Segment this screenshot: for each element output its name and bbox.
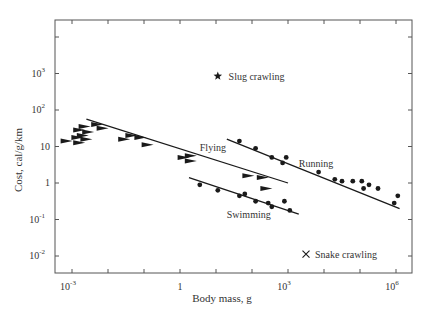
fit-lines: [86, 119, 399, 214]
running-point: [367, 182, 372, 187]
swimming-point: [282, 199, 287, 204]
flying-point: [79, 124, 91, 129]
x-tick-exponent: 3: [287, 279, 291, 287]
plot-axes: [55, 20, 412, 273]
y-tick-label: 103: [32, 66, 46, 79]
series-label-swimming: Swimming: [227, 209, 271, 220]
swimming-point: [253, 199, 258, 204]
x-tick-label: 103: [277, 279, 291, 292]
x-tick-exponent: -3: [70, 279, 76, 287]
swimming-point: [266, 201, 271, 206]
series-label-slug-crawling: Slug crawling: [229, 71, 285, 82]
x-tick-label: 1: [178, 281, 183, 292]
running-point: [359, 179, 364, 184]
running-point: [376, 186, 381, 191]
x-axis-label: Body mass, g: [192, 292, 252, 304]
running-point: [350, 179, 355, 184]
y-tick-label: 102: [32, 102, 46, 115]
running-point: [284, 155, 289, 160]
y-tick-exponent: 2: [42, 102, 46, 110]
swimming-point: [242, 192, 247, 197]
flying-point: [118, 137, 130, 142]
flying-point: [61, 139, 73, 144]
series-label-snake-crawling: Snake crawling: [315, 249, 377, 260]
swimming-point: [215, 188, 220, 193]
x-tick-label: 106: [385, 279, 399, 292]
swimming-point: [287, 208, 292, 213]
x-tick-exponent: 6: [395, 279, 399, 287]
running-point: [237, 139, 242, 144]
series-label-running: Running: [299, 158, 333, 169]
running-point: [332, 177, 337, 182]
flying-point: [80, 137, 92, 142]
running-point: [316, 170, 321, 175]
swimming-point: [237, 193, 242, 198]
running-point: [392, 201, 397, 206]
y-tick-label: 10-1: [29, 212, 45, 225]
y-tick-exponent: 3: [42, 66, 46, 74]
running-point: [340, 179, 345, 184]
flying-point: [73, 140, 85, 145]
y-tick-label: 10: [40, 141, 50, 152]
x-mark-icon: [303, 251, 310, 258]
flying-point: [97, 126, 109, 131]
series-label-flying: Flying: [200, 142, 226, 153]
y-tick-exponent: -2: [39, 248, 45, 256]
flying-point: [260, 186, 272, 191]
plot-frame: [55, 20, 412, 273]
flying-point: [142, 142, 154, 147]
swimming-point: [197, 182, 202, 187]
running-point: [361, 186, 366, 191]
running-point: [395, 193, 400, 198]
y-tick-exponent: -1: [39, 212, 45, 220]
running-point: [280, 161, 285, 166]
running-point: [253, 146, 258, 151]
star-icon: [214, 72, 223, 80]
y-axis-label: Cost, cal/g/km: [12, 127, 24, 192]
running-point: [269, 155, 274, 160]
flying-point: [185, 159, 197, 164]
y-tick-label: 1: [45, 177, 50, 188]
locomotion-cost-chart: 10-31103106 10310210110-110-2 FlyingRunn…: [0, 0, 430, 312]
flying-point: [242, 173, 254, 178]
x-tick-label: 10-3: [60, 279, 76, 292]
series-labels: FlyingRunningSwimmingSlug crawlingSnake …: [200, 71, 377, 260]
y-tick-label: 10-2: [29, 248, 45, 261]
